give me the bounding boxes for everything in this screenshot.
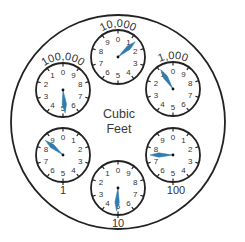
dial-digit: 0 <box>171 133 176 142</box>
dial-digit: 4 <box>126 68 131 77</box>
dial-digit: 4 <box>50 101 55 110</box>
dial-digit: 2 <box>44 80 49 89</box>
dial-digit: 7 <box>188 91 193 100</box>
dial-digit: 9 <box>71 71 76 80</box>
dial-digit: 7 <box>44 157 49 166</box>
dial-digit: 3 <box>188 157 193 166</box>
dial-digit: 8 <box>188 79 193 88</box>
dial-digit: 5 <box>171 169 176 178</box>
dial-digit: 4 <box>71 166 76 175</box>
dial-pivot <box>117 187 120 190</box>
dial-digit: 7 <box>133 190 138 199</box>
dial-digit: 0 <box>116 166 121 175</box>
dial-pivot <box>117 56 120 59</box>
dial-digit: 0 <box>61 133 66 142</box>
dial-pivot <box>62 154 65 157</box>
dial-digit: 2 <box>154 79 159 88</box>
dial-1: 01234567891 <box>36 128 90 196</box>
dial-digit: 8 <box>78 80 83 89</box>
dial-digit: 5 <box>61 169 66 178</box>
dial-digit: 4 <box>181 166 186 175</box>
dial-digit: 7 <box>154 157 159 166</box>
dial-pivot <box>62 89 65 92</box>
dial-digit: 0 <box>171 67 176 76</box>
dial-digit: 6 <box>181 100 186 109</box>
dial-digit: 1 <box>181 136 186 145</box>
dial-digit: 6 <box>126 199 131 208</box>
dial-digit: 4 <box>105 199 110 208</box>
center-label-line1: Cubic <box>94 107 144 122</box>
dial-digit: 9 <box>181 70 186 79</box>
dial-100000: 0123456789100,000 <box>36 50 90 117</box>
dial-label: 1 <box>60 184 66 196</box>
dial-digit: 8 <box>99 47 104 56</box>
dial-label: 100 <box>167 184 185 196</box>
dial-digit: 3 <box>133 59 138 68</box>
dial-digit: 6 <box>105 68 110 77</box>
dial-digit: 8 <box>44 145 49 154</box>
dial-digit: 9 <box>105 38 110 47</box>
dial-digit: 9 <box>160 136 165 145</box>
dial-pivot <box>172 88 175 91</box>
dial-digit: 6 <box>71 101 76 110</box>
dial-digit: 3 <box>78 157 83 166</box>
dial-10: 012345678910 <box>91 161 145 229</box>
dial-100: 0123456789100 <box>146 128 200 196</box>
dial-digit: 0 <box>116 35 121 44</box>
dial-digit: 1 <box>105 169 110 178</box>
dial-digit: 8 <box>133 178 138 187</box>
dial-digit: 4 <box>160 100 165 109</box>
dial-1000: 01234567891,000 <box>146 49 200 116</box>
dial-digit: 5 <box>116 71 121 80</box>
dial-digit: 2 <box>99 178 104 187</box>
dial-digit: 2 <box>188 145 193 154</box>
dial-pivot <box>172 154 175 157</box>
dial-digit: 1 <box>50 71 55 80</box>
dial-label: 10 <box>112 217 124 229</box>
dial-digit: 2 <box>78 145 83 154</box>
dial-digit: 3 <box>99 190 104 199</box>
dial-digit: 3 <box>44 92 49 101</box>
dial-digit: 9 <box>126 169 131 178</box>
dial-digit: 6 <box>160 166 165 175</box>
dial-digit: 1 <box>71 136 76 145</box>
dial-digit: 7 <box>78 92 83 101</box>
dial-digit: 3 <box>154 91 159 100</box>
dial-digit: 2 <box>133 47 138 56</box>
dial-digit: 0 <box>61 68 66 77</box>
dial-digit: 5 <box>171 103 176 112</box>
dial-digit: 6 <box>50 166 55 175</box>
dial-10000: 012345678910,000 <box>91 17 145 84</box>
center-label: Cubic Feet <box>94 107 144 137</box>
dial-digit: 7 <box>99 59 104 68</box>
center-label-line2: Feet <box>94 122 144 137</box>
